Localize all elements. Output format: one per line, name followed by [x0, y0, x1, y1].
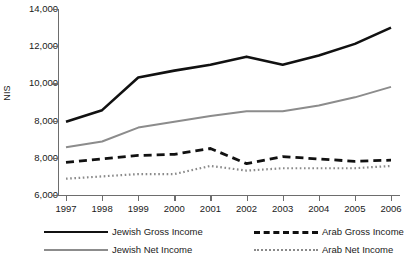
x-axis-line [58, 195, 400, 196]
x-tick-label: 2000 [154, 203, 194, 214]
legend-label: Jewish Gross Income [112, 226, 203, 237]
y-tick-mark [52, 46, 58, 47]
x-tick-mark [355, 196, 356, 201]
x-tick-label: 1998 [82, 203, 122, 214]
y-tick-mark [52, 9, 58, 10]
legend-swatch-icon [44, 231, 108, 237]
legend-swatch-icon [44, 249, 108, 255]
x-tick-mark [174, 196, 175, 201]
x-tick-label: 2005 [335, 203, 375, 214]
x-tick-label: 1997 [46, 203, 86, 214]
series-line [66, 149, 391, 164]
x-tick-label: 1999 [118, 203, 158, 214]
y-axis-title: NIS [2, 70, 12, 116]
x-tick-label: 2004 [299, 203, 339, 214]
y-tick-mark [52, 121, 58, 122]
x-tick-mark [138, 196, 139, 201]
series-lines [58, 9, 399, 195]
x-tick-mark [319, 196, 320, 201]
x-tick-label: 2002 [227, 203, 267, 214]
x-tick-mark [66, 196, 67, 201]
chart-figure: NIS 14,00012,00010,0008,0008,0006,000 19… [0, 0, 405, 261]
legend-label: Arab Net Income [322, 244, 393, 255]
x-tick-label: 2006 [371, 203, 405, 214]
y-tick-mark [52, 195, 58, 196]
x-tick-mark [391, 196, 392, 201]
chart-legend: Jewish Gross IncomeArab Gross IncomeJewi… [0, 225, 405, 261]
series-line [66, 87, 391, 147]
y-tick-mark [52, 158, 58, 159]
x-tick-mark [283, 196, 284, 201]
legend-label: Arab Gross Income [322, 226, 404, 237]
series-line [66, 166, 391, 179]
legend-swatch-icon [254, 231, 318, 238]
x-tick-mark [102, 196, 103, 201]
legend-label: Jewish Net Income [112, 244, 192, 255]
x-tick-label: 2001 [190, 203, 230, 214]
x-tick-mark [210, 196, 211, 201]
plot-area [58, 9, 399, 195]
x-tick-label: 2003 [263, 203, 303, 214]
x-tick-mark [247, 196, 248, 201]
y-tick-mark [52, 83, 58, 84]
y-axis-tick-labels: 14,00012,00010,0008,0008,0006,000 [14, 0, 58, 200]
legend-swatch-icon [254, 249, 318, 255]
x-axis-tick-labels: 1997199819992000200120022003200420052006 [0, 203, 405, 217]
series-line [66, 28, 391, 122]
